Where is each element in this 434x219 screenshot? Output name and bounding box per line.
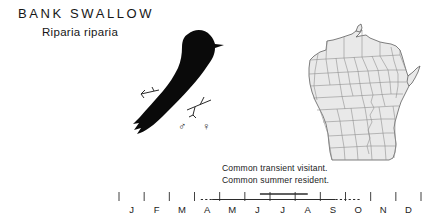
female-symbol: ♀ (202, 120, 210, 132)
scientific-name: Riparia riparia (42, 26, 118, 38)
timeline-month-label: A (204, 204, 211, 215)
timeline-month-label: M (228, 204, 236, 215)
perch-twig-left (141, 87, 159, 98)
bird-illustration (125, 18, 255, 143)
timeline-month-label: J (255, 204, 260, 215)
status-caption: Common transient visitant. Common summer… (222, 163, 329, 186)
timeline-month-label: F (154, 204, 160, 215)
timeline-month-label: N (380, 204, 387, 215)
status-line-resident: Common summer resident. (222, 175, 329, 187)
timeline-month-label: O (354, 204, 361, 215)
timeline-month-label: J (280, 204, 285, 215)
bird-eye (203, 38, 205, 40)
timeline-month-labels: JFMAMJJASOND (129, 204, 412, 215)
wisconsin-state-shape (309, 24, 420, 160)
seasonal-timeline-chart: JFMAMJJASOND (113, 190, 427, 218)
distribution-map (296, 16, 428, 172)
perch-twig-right (187, 97, 211, 118)
male-symbol: ♂ (178, 120, 186, 132)
timeline-month-label: M (178, 204, 186, 215)
timeline-month-label: D (405, 204, 412, 215)
timeline-month-label: J (129, 204, 134, 215)
timeline-month-label: A (305, 204, 312, 215)
status-line-transient: Common transient visitant. (222, 163, 329, 175)
timeline-bars (201, 194, 361, 200)
field-guide-plate-page: BANK SWALLOW Riparia riparia (0, 0, 434, 219)
timeline-month-label: S (330, 204, 336, 215)
swallow-body-silhouette (133, 30, 224, 134)
